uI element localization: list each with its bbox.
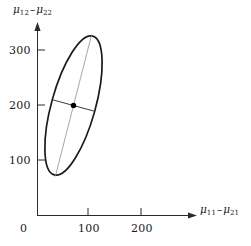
y-title-mu-1: μ <box>13 3 20 15</box>
center-point-marker <box>71 103 76 108</box>
x-tick-label-200: 200 <box>131 222 153 235</box>
confidence-ellipse <box>33 30 114 181</box>
y-tick-label-300: 300 <box>9 44 31 57</box>
y-axis-arrowhead-icon <box>34 22 40 31</box>
x-title-mu-1: μ <box>200 203 207 215</box>
confidence-ellipse-plot: μ12–μ22 μ11–μ21 0 100 200 100 200 300 <box>0 0 251 246</box>
x-axis-title: μ11–μ21 <box>200 203 239 217</box>
x-title-sub-2: 21 <box>230 209 239 217</box>
y-title-mu-2: μ <box>36 3 43 15</box>
x-tick-label-100: 100 <box>78 222 100 235</box>
y-tick-label-200: 200 <box>9 99 31 112</box>
x-title-mu-2: μ <box>223 203 230 215</box>
x-axis <box>37 208 197 219</box>
y-tick-label-100: 100 <box>9 154 31 167</box>
x-title-sub-1: 11 <box>207 209 216 217</box>
y-axis-title: μ12–μ22 <box>13 3 52 17</box>
x-tick-label-0: 0 <box>20 222 27 235</box>
y-axis <box>34 22 45 215</box>
y-title-sub-2: 22 <box>43 9 52 17</box>
y-title-sub-1: 12 <box>20 9 29 17</box>
x-axis-arrowhead-icon <box>188 212 197 218</box>
